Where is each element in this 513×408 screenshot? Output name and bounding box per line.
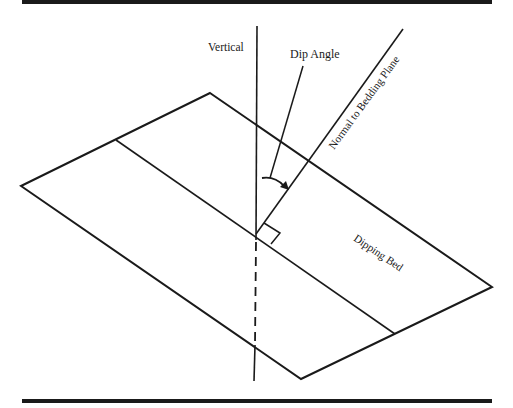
dipping-bed-label: Dipping Bed <box>352 232 406 274</box>
dip-angle-arc <box>262 178 284 186</box>
vertical-label: Vertical <box>208 41 244 53</box>
vertical-line-lower <box>254 345 255 381</box>
dip-angle-label: Dip Angle <box>290 47 340 61</box>
dip-angle-pointer <box>270 66 303 178</box>
vertical-line <box>256 26 257 240</box>
normal-label: Normal to Bedding Plane <box>326 53 402 151</box>
right-angle-marker <box>264 223 280 244</box>
bottom-rule <box>22 399 492 403</box>
vertical-line-hidden <box>255 242 256 345</box>
dipping-bed-diagram: Vertical Dip Angle Normal to Bedding Pla… <box>0 0 513 408</box>
top-rule <box>22 0 492 4</box>
